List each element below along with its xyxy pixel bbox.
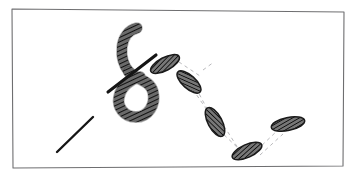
sketch-canvas [0, 0, 356, 184]
hand-drawn-illustration [0, 0, 356, 184]
canvas-background [0, 0, 356, 184]
